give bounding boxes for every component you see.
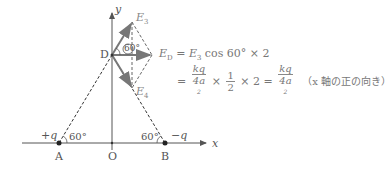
equation-line-1: ED = E3 cos 60° × 2 [159,47,270,62]
fraction-kq-4a2: kq4a2 [192,63,206,100]
vector-E4-label: E4 [136,86,149,100]
origin-label: O [108,151,117,162]
point-A-label: A [55,151,63,162]
angle-A-label: 60° [69,132,87,142]
fraction-result: kq4a2 [278,63,292,100]
x-axis-label: x [212,138,218,149]
point-A [57,141,62,146]
equation-line-2: = kq4a2 × 12 × 2 = kq4a2 （x 軸の正の向き） [177,63,388,100]
vector-E3-label: E3 [136,12,149,26]
angle-D-label: 60° [124,44,140,53]
direction-note: （x 軸の正の向き） [302,76,388,87]
point-D [111,54,114,57]
point-O [111,142,113,144]
charge-B-label: −q [171,130,187,141]
fraction-half: 12 [226,70,234,93]
point-D-label: D [100,49,109,60]
point-B [163,141,168,146]
charge-A-label: +q [41,130,57,141]
dashed-line-AD [59,55,112,143]
vector-E4 [112,55,131,86]
angle-B-label: 60° [141,132,159,142]
y-axis-label: y [115,4,121,15]
point-B-label: B [161,151,169,162]
